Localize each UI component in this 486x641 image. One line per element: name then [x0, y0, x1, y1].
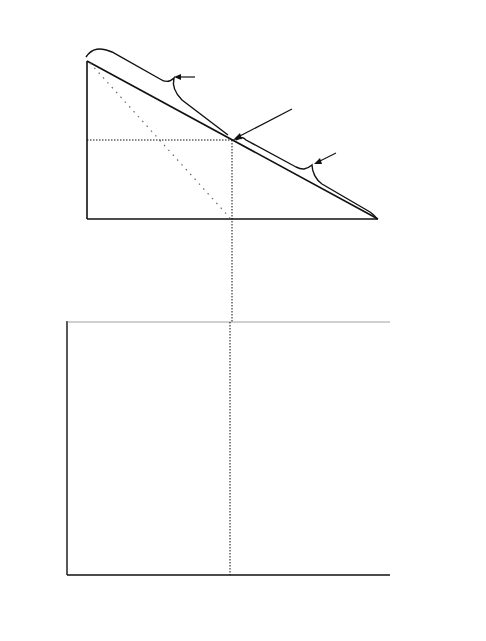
elastic-arrowhead-icon: [174, 74, 181, 80]
unit-elastic-arrow: [238, 109, 292, 137]
figure: [0, 0, 486, 641]
bottom-chart: [67, 321, 390, 575]
elastic-range-brace: [86, 49, 228, 135]
inelastic-arrowhead-icon: [314, 158, 322, 164]
top-chart: [86, 49, 378, 322]
unit-elastic-arrowhead-icon: [233, 133, 242, 140]
